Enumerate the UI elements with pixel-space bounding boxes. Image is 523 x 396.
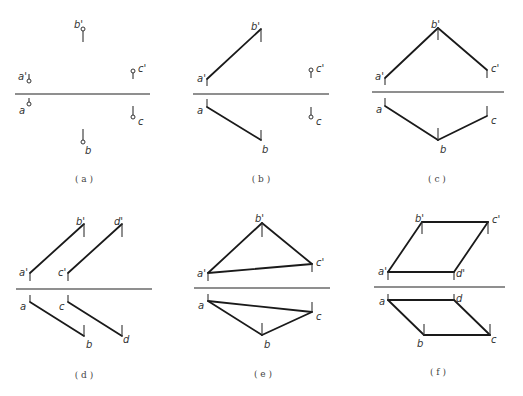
point-label: a bbox=[379, 296, 385, 307]
point-label: a bbox=[20, 301, 26, 312]
point-label: a' bbox=[197, 268, 206, 279]
point-label: a' bbox=[18, 71, 27, 82]
point-label: a' bbox=[197, 73, 206, 84]
point-label: c' bbox=[491, 63, 499, 74]
point-label: a' bbox=[378, 266, 387, 277]
edge-ap-bp bbox=[208, 223, 262, 273]
edge-bp-cp bbox=[262, 223, 312, 264]
panel-f: a'ab'bc'cd'd( f ) bbox=[374, 213, 505, 377]
point-label: c' bbox=[316, 63, 324, 74]
point-label: c bbox=[491, 115, 497, 126]
edge-ap-bp bbox=[388, 222, 422, 272]
point-marker bbox=[27, 102, 31, 106]
point-label: c bbox=[59, 301, 65, 312]
panel-e: a'ab'bc'c( e ) bbox=[194, 213, 330, 379]
point-label: d' bbox=[114, 216, 123, 227]
point-marker bbox=[131, 115, 135, 119]
point-marker bbox=[27, 79, 31, 83]
edge-ap-cp bbox=[208, 264, 312, 273]
point-label: c' bbox=[316, 257, 324, 268]
point-label: b bbox=[85, 145, 91, 156]
point-marker bbox=[309, 68, 313, 72]
point-label: c bbox=[491, 334, 497, 345]
point-marker bbox=[81, 140, 85, 144]
edge-b-c bbox=[262, 312, 312, 335]
point-label: b' bbox=[251, 21, 260, 32]
panel-caption: ( e ) bbox=[254, 369, 272, 379]
point-marker bbox=[309, 115, 313, 119]
edge-b-c bbox=[438, 116, 487, 140]
point-label: b bbox=[86, 339, 92, 350]
point-label: c' bbox=[138, 63, 146, 74]
edge-bp-cp bbox=[438, 28, 487, 70]
point-label: c bbox=[316, 311, 322, 322]
edge-a-b bbox=[207, 107, 261, 140]
point-label: b bbox=[264, 339, 270, 350]
point-marker bbox=[131, 69, 135, 73]
point-label: a bbox=[376, 104, 382, 115]
panel-a: a'ab'bc'c( a ) bbox=[15, 19, 150, 184]
point-label: b bbox=[440, 144, 446, 155]
point-label: a bbox=[197, 105, 203, 116]
projection-diagram: a'ab'bc'c( a )a'ab'bc'c( b )a'ab'bc'c( c… bbox=[0, 0, 523, 396]
point-label: d bbox=[123, 334, 130, 345]
edge-cp-dp bbox=[454, 222, 488, 272]
point-label: a' bbox=[375, 71, 384, 82]
panel-caption: ( f ) bbox=[430, 367, 446, 377]
point-label: b' bbox=[76, 216, 85, 227]
point-label: b' bbox=[255, 213, 264, 224]
edge-c-d bbox=[454, 300, 490, 335]
point-label: b bbox=[417, 338, 423, 349]
point-label: c bbox=[316, 116, 322, 127]
edge-a-b bbox=[388, 300, 424, 335]
panel-b: a'ab'bc'c( b ) bbox=[193, 21, 329, 184]
point-label: b bbox=[262, 144, 268, 155]
panel-c: a'ab'bc'c( c ) bbox=[372, 19, 504, 184]
point-label: a bbox=[198, 300, 204, 311]
point-label: c' bbox=[492, 214, 500, 225]
panel-caption: ( b ) bbox=[252, 174, 271, 184]
panel-d: a'ab'bc'cd'd( d ) bbox=[16, 216, 152, 380]
point-label: a' bbox=[19, 267, 28, 278]
point-label: b' bbox=[74, 19, 83, 30]
panel-caption: ( c ) bbox=[428, 174, 446, 184]
point-label: c' bbox=[58, 267, 66, 278]
point-label: d' bbox=[456, 268, 465, 279]
point-label: d bbox=[456, 293, 463, 304]
point-label: c bbox=[138, 116, 144, 127]
panel-caption: ( a ) bbox=[75, 174, 93, 184]
point-label: a bbox=[19, 105, 25, 116]
point-label: b' bbox=[431, 19, 440, 30]
point-label: b' bbox=[415, 213, 424, 224]
panel-caption: ( d ) bbox=[75, 370, 94, 380]
edge-ap-bp bbox=[207, 29, 261, 79]
edge-ap-bp bbox=[385, 28, 438, 78]
edge-a-b bbox=[385, 106, 438, 140]
